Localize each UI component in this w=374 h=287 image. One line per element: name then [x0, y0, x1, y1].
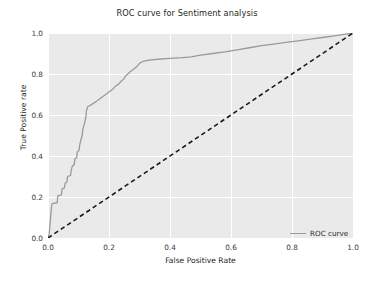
y-tick-label: 0.0: [10, 234, 43, 243]
chart-title: ROC curve for Sentiment analysis: [0, 8, 374, 18]
plot-area: [48, 33, 353, 238]
x-tick-label: 0.0: [28, 243, 68, 252]
y-tick-label: 1.0: [10, 29, 43, 38]
x-tick-label: 0.2: [89, 243, 129, 252]
x-axis-label: False Positive Rate: [48, 256, 353, 265]
plot-canvas: [48, 33, 353, 238]
x-tick-label: 0.6: [211, 243, 251, 252]
legend-swatch-roc-curve: [290, 233, 306, 234]
x-tick-label: 0.8: [272, 243, 312, 252]
y-tick-label: 0.2: [10, 193, 43, 202]
roc-chart-figure: ROC curve for Sentiment analysis 0.00.20…: [0, 0, 374, 287]
x-tick-label: 0.4: [150, 243, 190, 252]
legend-label-roc-curve: ROC curve: [310, 229, 348, 238]
y-axis-label: True Positive rate: [19, 48, 28, 188]
chance-diagonal-line: [48, 33, 353, 238]
x-tick-label: 1.0: [333, 243, 373, 252]
chart-legend: ROC curve: [288, 228, 350, 239]
